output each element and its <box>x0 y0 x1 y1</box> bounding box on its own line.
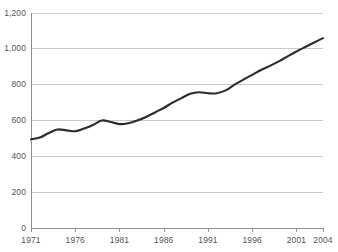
x-axis-label-2004: 2004 <box>308 235 338 245</box>
gridlines <box>31 13 323 228</box>
x-axis-label-1981: 1981 <box>104 235 134 245</box>
x-axis-label-1976: 1976 <box>60 235 90 245</box>
line-chart: 02004006008001,0001,200 1971197619811986… <box>0 0 338 252</box>
x-axis-ticks <box>32 228 324 232</box>
chart-plot-area <box>0 0 338 252</box>
y-axis-label-600: 600 <box>12 115 26 125</box>
x-axis-label-1991: 1991 <box>193 235 223 245</box>
y-axis-label-1200: 1,200 <box>4 8 26 18</box>
x-axis-label-1971: 1971 <box>16 235 46 245</box>
data-line-series-1 <box>31 38 323 139</box>
y-axis-label-1000: 1,000 <box>4 43 26 53</box>
y-axis-label-200: 200 <box>12 187 26 197</box>
y-axis-label-800: 800 <box>12 79 26 89</box>
x-axis-label-1986: 1986 <box>149 235 179 245</box>
x-axis-label-1996: 1996 <box>237 235 267 245</box>
y-axis-label-400: 400 <box>12 151 26 161</box>
x-axis-label-2001: 2001 <box>281 235 311 245</box>
y-axis-label-0: 0 <box>21 223 26 233</box>
